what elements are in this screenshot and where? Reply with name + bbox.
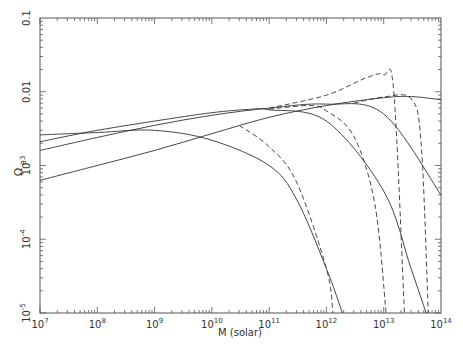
series-solid-2 [40, 109, 426, 313]
x-tick-label: 107 [31, 317, 48, 330]
svg-text:0.01: 0.01 [21, 81, 32, 103]
series-dashed-1 [239, 125, 333, 313]
series-dashed-4 [354, 95, 429, 313]
series-solid-4 [40, 96, 441, 180]
plot-curves [40, 69, 441, 313]
y-tick-label: 10-5 [19, 303, 32, 323]
svg-text:0.1: 0.1 [21, 10, 32, 26]
svg-text:10-5: 10-5 [19, 303, 32, 323]
y-tick-label: 0.1 [21, 10, 32, 26]
svg-text:B: B [20, 160, 28, 165]
plot-frame [40, 18, 441, 313]
x-tick-label: 108 [89, 317, 106, 330]
y-tick-label: 0.01 [21, 81, 32, 103]
series-solid-3 [40, 104, 441, 195]
x-tick-label: 1012 [316, 317, 338, 330]
axis-ticks [40, 18, 441, 313]
tick-labels: 1071081091010101110121013101410-510-410-… [19, 10, 452, 330]
svg-text:10-4: 10-4 [19, 229, 32, 249]
x-axis-label: M (solar) [218, 327, 262, 338]
series-dashed-2 [269, 106, 386, 313]
svg-text:Ω: Ω [12, 168, 25, 176]
x-tick-label: 1014 [430, 317, 452, 330]
y-tick-label: 10-4 [19, 229, 32, 249]
series-solid-1 [40, 130, 342, 313]
x-tick-label: 1013 [373, 317, 395, 330]
chart: 1071081091010101110121013101410-510-410-… [0, 0, 463, 349]
x-tick-label: 109 [146, 317, 163, 330]
